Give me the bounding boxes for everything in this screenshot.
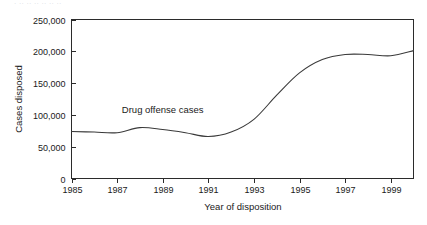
y-axis-ticks bbox=[72, 21, 76, 180]
chart-annotations: Drug offense cases bbox=[122, 104, 204, 115]
series-inline-label: Drug offense cases bbox=[122, 104, 204, 115]
y-axis-title: Cases disposed bbox=[13, 65, 24, 133]
x-tick-label: 1999 bbox=[381, 185, 401, 195]
x-axis-ticks bbox=[73, 179, 392, 183]
x-tick-label: 1993 bbox=[244, 185, 264, 195]
y-tick-label: 50,000 bbox=[38, 143, 66, 153]
y-tick-label: 200,000 bbox=[33, 47, 66, 57]
x-tick-label: 1995 bbox=[290, 185, 310, 195]
y-tick-label: 150,000 bbox=[33, 79, 66, 89]
line-chart-figure: 050,000100,000150,000200,000250,000 1985… bbox=[0, 0, 427, 225]
plot-frame bbox=[72, 20, 414, 179]
y-tick-label: 100,000 bbox=[33, 111, 66, 121]
y-axis-tick-labels: 050,000100,000150,000200,000250,000 bbox=[33, 16, 66, 185]
chart-canvas: 050,000100,000150,000200,000250,000 1985… bbox=[0, 0, 427, 225]
y-tick-label: 0 bbox=[60, 175, 65, 185]
x-tick-label: 1987 bbox=[107, 185, 127, 195]
x-tick-label: 1991 bbox=[198, 185, 218, 195]
y-tick-label: 250,000 bbox=[33, 16, 66, 26]
x-tick-label: 1985 bbox=[62, 185, 82, 195]
x-axis-tick-labels: 19851987198919911993199519971999 bbox=[62, 185, 401, 195]
x-tick-label: 1989 bbox=[153, 185, 173, 195]
x-tick-label: 1997 bbox=[335, 185, 355, 195]
data-series-drug-offense-cases bbox=[72, 51, 414, 137]
x-axis-title: Year of disposition bbox=[204, 201, 281, 212]
